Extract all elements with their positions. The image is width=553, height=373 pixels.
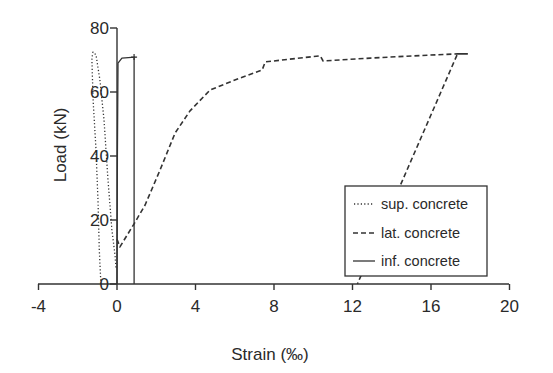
x-tick-label: 4 [191, 297, 200, 316]
y-tick-label: 60 [90, 83, 109, 102]
cross-marker-icon [131, 54, 137, 60]
series-inf-concrete [117, 57, 135, 284]
x-tick-label: 12 [343, 297, 362, 316]
y-tick-label: 40 [90, 147, 109, 166]
x-axis-title: Strain (‰) [231, 345, 308, 364]
legend-label: sup. concrete [381, 196, 468, 212]
legend: sup. concrete lat. concrete inf. concret… [345, 186, 487, 276]
x-tick-label: 16 [422, 297, 441, 316]
legend-label: inf. concrete [381, 253, 460, 269]
y-axis-ticks: 020406080 [90, 19, 117, 294]
legend-label: lat. concrete [381, 225, 460, 241]
y-tick-label: 80 [90, 19, 109, 38]
x-tick-label: 8 [269, 297, 278, 316]
y-tick-label: 0 [100, 275, 109, 294]
x-tick-label: 20 [500, 297, 519, 316]
y-axis-title: Load (kN) [51, 108, 70, 183]
x-tick-label: -4 [31, 297, 46, 316]
load-strain-chart: -4048121620 020406080 Strain (‰) Load (k… [0, 0, 553, 373]
y-tick-label: 20 [90, 211, 109, 230]
x-tick-label: 0 [112, 297, 121, 316]
